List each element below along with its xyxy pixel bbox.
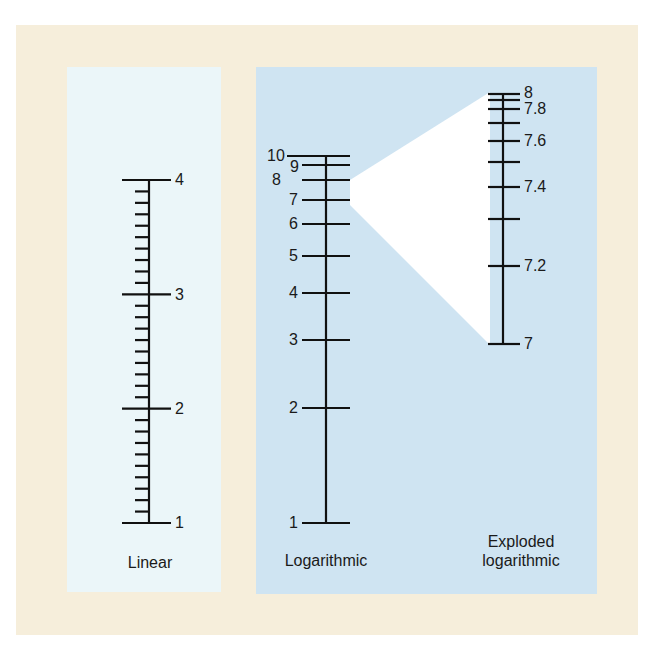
log-label-1: 1 xyxy=(289,515,298,531)
linear-scale xyxy=(122,180,171,523)
linear-label-3: 3 xyxy=(175,287,184,303)
log-label-2: 2 xyxy=(289,400,298,416)
linear-label-1: 1 xyxy=(175,515,184,531)
log-label-3: 3 xyxy=(289,332,298,348)
exploded-caption: Exploded logarithmic xyxy=(466,532,576,570)
linear-label-4: 4 xyxy=(175,172,184,188)
exploded-label-7-2: 7.2 xyxy=(524,258,546,274)
log-label-8: 8 xyxy=(272,172,281,188)
exploded-label-7: 7 xyxy=(524,336,533,352)
exploded-label-7-4: 7.4 xyxy=(524,179,546,195)
log-label-9: 9 xyxy=(290,159,299,175)
exploded-label-8: 8 xyxy=(524,85,533,101)
exploded-scale xyxy=(488,94,520,344)
exploded-caption-line2: logarithmic xyxy=(466,551,576,570)
explode-wedge xyxy=(350,92,490,345)
exploded-label-7-8: 7.8 xyxy=(524,101,546,117)
exploded-caption-line1: Exploded xyxy=(466,532,576,551)
log-caption: Logarithmic xyxy=(266,551,386,570)
log-label-5: 5 xyxy=(289,248,298,264)
exploded-label-7-6: 7.6 xyxy=(524,133,546,149)
log-label-4: 4 xyxy=(289,285,298,301)
linear-label-2: 2 xyxy=(175,401,184,417)
linear-caption: Linear xyxy=(100,553,200,572)
log-label-10: 10 xyxy=(267,148,285,164)
log-label-7: 7 xyxy=(289,192,298,208)
log-label-6: 6 xyxy=(289,216,298,232)
